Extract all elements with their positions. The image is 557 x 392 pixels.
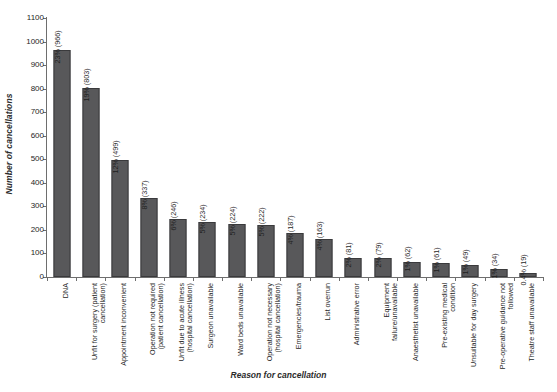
bar-value-label: 1% (49) xyxy=(457,254,482,262)
bar-value-label: 4% (163) xyxy=(310,228,339,236)
x-axis-category-text: Administrative error xyxy=(353,283,361,373)
x-axis-category-line: Emergencies/trauma xyxy=(295,283,303,373)
y-axis-tick-label: 500 xyxy=(31,155,44,163)
bar-chart-figure: Number of cancellations 0100200300400500… xyxy=(0,0,557,392)
x-axis-title: Reason for cancellation xyxy=(0,370,557,380)
bar-value-text: 1% (34) xyxy=(491,253,499,278)
bar[interactable] xyxy=(111,160,128,277)
x-axis-category-line: Anaesthetist unavailable xyxy=(412,283,420,373)
y-axis-tick-label: 200 xyxy=(31,226,44,234)
bar-value-text: 1% (61) xyxy=(433,247,441,272)
y-axis-tick-label: 1000 xyxy=(26,38,44,46)
y-axis-tick-label: 0 xyxy=(40,273,44,281)
x-axis-category-text: Unsuitable for day surgery xyxy=(470,283,478,373)
bar-slot: 4% (187) xyxy=(280,18,309,277)
x-axis-category-line: condition xyxy=(449,283,457,373)
x-axis-category-line: (hospital cancellation) xyxy=(274,283,282,373)
bar-value-label: 2% (79) xyxy=(370,247,395,255)
bar-value-label: 5% (234) xyxy=(193,211,222,219)
x-axis-category-line: failure/unavailable xyxy=(391,283,399,373)
bar[interactable] xyxy=(82,88,99,277)
x-axis-category-line: (hospital cancellation) xyxy=(186,283,194,373)
x-axis-category-line: cancellation) xyxy=(99,283,107,373)
bar-value-text: 4% (187) xyxy=(287,215,295,244)
bar-value-text: 8% (337) xyxy=(141,180,149,209)
bar-slot: 1% (62) xyxy=(397,18,426,277)
x-axis-category-text: Ward beds unavailable xyxy=(237,283,245,373)
bar-value-label: 19% (803) xyxy=(74,77,107,85)
x-axis-tick-mark xyxy=(47,277,48,281)
x-axis-category-line: Administrative error xyxy=(353,283,361,373)
bar-slot: 23% (966) xyxy=(47,18,76,277)
x-axis-category-text: Unfit due to acute illness(hospital canc… xyxy=(178,283,194,373)
x-axis-category-line: Appointment inconvenient xyxy=(120,283,128,373)
bar-value-label: 0.4% (19) xyxy=(513,262,544,270)
bar-value-text: 5% (234) xyxy=(199,204,207,233)
y-axis-tick-label: 400 xyxy=(31,179,44,187)
x-axis-category-text: Surgeon unavailable xyxy=(207,283,215,373)
bar-value-text: 5% (224) xyxy=(229,207,237,236)
bar-slot: 0.4% (19) xyxy=(514,18,543,277)
bar-value-label: 23% (966) xyxy=(45,39,78,47)
x-axis-category-text: Pre-existing medicalcondition xyxy=(441,283,457,373)
x-axis-tick-mark xyxy=(280,277,281,281)
bar-value-text: 19% (803) xyxy=(83,68,91,101)
x-axis-category-line: DNA xyxy=(62,283,70,373)
x-axis-tick-mark xyxy=(426,277,427,281)
bar-value-label: 8% (337) xyxy=(135,187,164,195)
bar[interactable] xyxy=(53,50,70,277)
x-axis-category-text: Operation not necessary(hospital cancell… xyxy=(266,283,282,373)
x-axis-tick-mark xyxy=(76,277,77,281)
bar-slot: 2% (79) xyxy=(368,18,397,277)
bar-value-label: 5% (224) xyxy=(222,213,251,221)
bar-slot: 6% (246) xyxy=(164,18,193,277)
x-axis-tick-mark xyxy=(368,277,369,281)
y-axis-tick-label: 600 xyxy=(31,132,44,140)
x-axis-tick-mark xyxy=(310,277,311,281)
bar-slot: 19% (803) xyxy=(76,18,105,277)
x-axis-tick-mark xyxy=(222,277,223,281)
x-axis-tick-mark xyxy=(397,277,398,281)
x-axis-tick-mark xyxy=(339,277,340,281)
x-axis-category-line: Unsuitable for day surgery xyxy=(470,283,478,373)
x-axis-category-text: List overrun xyxy=(324,283,332,373)
bar-slot: 5% (224) xyxy=(222,18,251,277)
bar-value-label: 4% (187) xyxy=(280,222,309,230)
bar-value-label: 1% (61) xyxy=(428,252,453,260)
x-axis-tick-mark xyxy=(193,277,194,281)
bar-slot: 1% (49) xyxy=(455,18,484,277)
x-axis-category-text: Operation not required(patient cancellat… xyxy=(149,283,165,373)
bar-slot: 1% (34) xyxy=(485,18,514,277)
y-axis-tick-label: 1100 xyxy=(27,14,44,22)
y-axis-tick-label: 300 xyxy=(31,202,44,210)
bar-value-label: 12% (499) xyxy=(103,149,136,157)
bar-value-label: 1% (34) xyxy=(487,258,512,266)
bar-value-text: 1% (49) xyxy=(462,250,470,275)
bar-value-label: 2% (81) xyxy=(341,247,366,255)
x-axis-category-text: DNA xyxy=(62,283,70,373)
plot-area: 010020030040050060070080090010001100 23%… xyxy=(47,18,543,277)
x-axis-tick-mark xyxy=(485,277,486,281)
x-axis-tick-mark xyxy=(543,277,544,281)
x-axis-category-text: Pre-operative guidance notfollowed xyxy=(499,283,515,373)
x-axis-category-line: List overrun xyxy=(324,283,332,373)
bar-slot: 2% (81) xyxy=(339,18,368,277)
bar-slot: 12% (499) xyxy=(105,18,134,277)
x-axis-category-text: Equipmentfailure/unavailable xyxy=(383,283,399,373)
bar-value-text: 0.4% (19) xyxy=(520,254,528,285)
x-axis-category-line: followed xyxy=(507,283,515,373)
bar-value-text: 12% (499) xyxy=(112,140,120,173)
bar-value-label: 5% (222) xyxy=(251,214,280,222)
x-axis-category-text: Appointment inconvenient xyxy=(120,283,128,373)
y-axis-title-text: Number of cancellations xyxy=(4,93,14,194)
bar-value-text: 6% (246) xyxy=(170,202,178,231)
bar-slot: 4% (163) xyxy=(310,18,339,277)
bar-slot: 5% (234) xyxy=(193,18,222,277)
x-axis-tick-mark xyxy=(455,277,456,281)
bar-value-label: 1% (62) xyxy=(399,251,424,259)
x-axis-tick-mark xyxy=(105,277,106,281)
x-axis-category-line: Theatre staff unavailable xyxy=(528,283,536,373)
x-axis-category-text: Theatre staff unavailable xyxy=(528,283,536,373)
y-axis-tick-label: 800 xyxy=(31,85,44,93)
bar-value-text: 4% (163) xyxy=(316,221,324,250)
